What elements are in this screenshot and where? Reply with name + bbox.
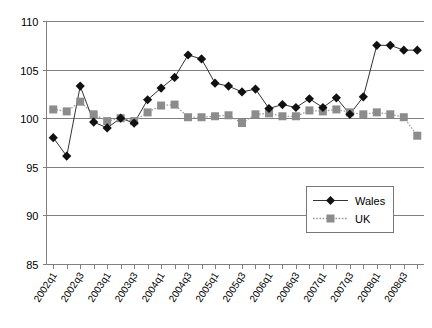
line-chart: 110105100959085 2002q12002q32003q12003q3… bbox=[0, 0, 432, 328]
series-wales-markers bbox=[49, 41, 422, 161]
x-tick-label: 2008q1 bbox=[355, 270, 383, 304]
legend-label-uk: UK bbox=[355, 213, 371, 225]
uk-data-point bbox=[198, 113, 206, 121]
y-tick-label: 100 bbox=[20, 113, 38, 125]
wales-data-point bbox=[372, 41, 381, 50]
uk-data-point bbox=[90, 110, 98, 118]
x-tick-label: 2007q3 bbox=[328, 270, 356, 304]
x-tick-label: 2005q1 bbox=[193, 270, 221, 304]
x-axis-tick-labels: 2002q12002q32003q12003q32004q12004q32005… bbox=[31, 270, 409, 304]
wales-data-point bbox=[237, 87, 246, 96]
wales-data-point bbox=[251, 84, 260, 93]
wales-data-point bbox=[62, 152, 71, 161]
uk-data-point bbox=[400, 113, 408, 121]
uk-data-point bbox=[386, 110, 394, 118]
y-tick-label: 85 bbox=[26, 259, 38, 271]
wales-data-point bbox=[305, 94, 314, 103]
wales-data-point bbox=[278, 100, 287, 109]
y-tick-label: 110 bbox=[21, 16, 39, 28]
chart-container: 110105100959085 2002q12002q32003q12003q3… bbox=[0, 0, 432, 328]
x-tick-label: 2006q1 bbox=[247, 270, 275, 304]
y-tick-label: 90 bbox=[26, 210, 38, 222]
y-tick-label: 105 bbox=[20, 65, 38, 77]
uk-data-point bbox=[292, 112, 300, 120]
wales-data-point bbox=[413, 46, 422, 55]
x-tick-label: 2006q3 bbox=[274, 270, 302, 304]
x-tick-label: 2002q1 bbox=[31, 270, 59, 304]
uk-data-point bbox=[413, 132, 421, 140]
uk-data-point bbox=[184, 113, 192, 121]
y-axis-tick-labels: 110105100959085 bbox=[20, 16, 38, 271]
chart-legend: Wales UK bbox=[307, 187, 394, 233]
uk-data-point bbox=[49, 105, 57, 113]
wales-data-point bbox=[386, 41, 395, 50]
x-tick-label: 2007q1 bbox=[301, 270, 329, 304]
wales-data-point bbox=[197, 54, 206, 63]
uk-data-point bbox=[225, 111, 233, 119]
uk-data-point bbox=[76, 98, 84, 106]
uk-data-point bbox=[171, 101, 179, 109]
uk-data-point bbox=[278, 112, 286, 120]
uk-data-point bbox=[211, 112, 219, 120]
legend-label-wales: Wales bbox=[355, 195, 386, 207]
uk-data-point bbox=[157, 102, 165, 110]
x-tick-label: 2004q3 bbox=[166, 270, 194, 304]
wales-data-point bbox=[291, 103, 300, 112]
wales-data-point bbox=[183, 50, 192, 59]
wales-data-point bbox=[49, 133, 58, 142]
uk-data-point bbox=[251, 110, 259, 118]
uk-data-point bbox=[373, 108, 381, 116]
y-tick-label: 95 bbox=[26, 162, 38, 174]
wales-data-point bbox=[170, 73, 179, 82]
wales-data-point bbox=[224, 82, 233, 91]
x-tick-label: 2002q3 bbox=[58, 270, 86, 304]
uk-data-point bbox=[63, 107, 71, 115]
wales-data-point bbox=[76, 82, 85, 91]
legend-box bbox=[307, 187, 394, 233]
legend-marker-uk bbox=[327, 215, 335, 223]
x-tick-label: 2003q1 bbox=[85, 270, 113, 304]
x-tick-label: 2004q1 bbox=[139, 270, 167, 304]
wales-data-point bbox=[359, 92, 368, 101]
x-tick-label: 2003q3 bbox=[112, 270, 140, 304]
uk-data-point bbox=[359, 110, 367, 118]
uk-data-point bbox=[144, 108, 152, 116]
uk-data-point bbox=[305, 106, 313, 114]
uk-data-point bbox=[332, 105, 340, 113]
wales-data-point bbox=[210, 79, 219, 88]
x-tick-label: 2005q3 bbox=[220, 270, 248, 304]
wales-data-point bbox=[399, 46, 408, 55]
uk-data-point bbox=[238, 119, 246, 127]
x-tick-label: 2008q3 bbox=[382, 270, 410, 304]
